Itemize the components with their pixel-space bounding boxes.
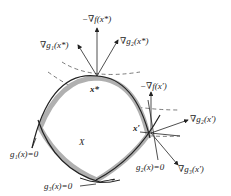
g3-constraint-label: g₃(x)=0 — [44, 181, 73, 191]
region-label: X — [78, 137, 85, 147]
g1-constraint-label: g₁(x)=0 — [10, 149, 39, 159]
g2-constraint-label: g₂(x)=0 — [136, 162, 165, 172]
gradients-at-optimum — [78, 28, 118, 76]
kkt-diagram: −∇f(x*) ∇g₁(x*) ∇g₂(x*) x* −∇f(x′) ∇g₂(x… — [0, 0, 231, 196]
optimum-label: x* — [89, 84, 100, 94]
grad-g2-point-label: ∇g₂(x′) — [190, 114, 216, 124]
point-label: x′ — [132, 123, 141, 133]
neg-grad-f-point-label: −∇f(x′) — [140, 81, 167, 91]
grad-g2-optimum-label: ∇g₂(x*) — [120, 36, 148, 46]
grad-g1-optimum-label: ∇g₁(x*) — [40, 40, 68, 50]
neg-grad-f-optimum-label: −∇f(x*) — [82, 14, 111, 24]
grad-g3-point-label: ∇g₃(x′) — [178, 164, 204, 174]
